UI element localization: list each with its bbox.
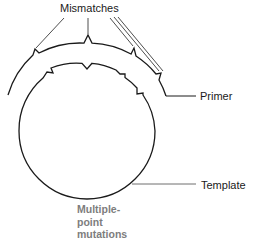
mutations-line-2: point	[77, 216, 127, 229]
mismatch-leader-4b	[118, 17, 163, 71]
primer-arc	[8, 35, 166, 96]
mismatch-leader-3	[110, 18, 133, 46]
primer-template-diagram	[0, 0, 256, 250]
mismatches-label: Mismatches	[60, 2, 119, 14]
mismatch-leader-4a	[114, 17, 159, 71]
multiple-point-mutations-label: Multiple- point mutations	[77, 203, 127, 241]
mutations-line-3: mutations	[77, 228, 127, 241]
mismatch-leader-1	[36, 18, 64, 48]
template-circle	[19, 63, 155, 199]
mutations-line-1: Multiple-	[77, 203, 127, 216]
template-label: Template	[201, 179, 246, 191]
primer-label: Primer	[200, 90, 232, 102]
